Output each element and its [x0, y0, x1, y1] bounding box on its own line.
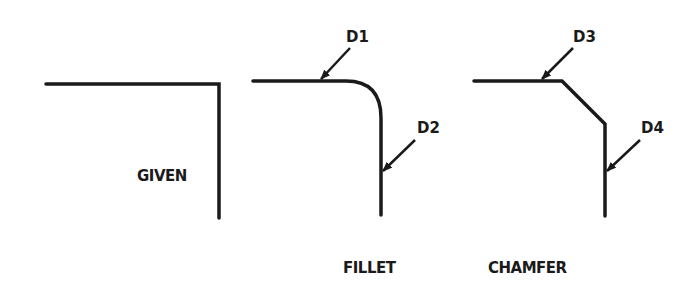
chamfer-label: CHAMFER: [488, 259, 568, 277]
d4-callout-label: D4: [641, 119, 664, 137]
fillet-corner-outline: [253, 81, 381, 215]
fillet-panel: D1 D2 FILLET: [253, 28, 440, 277]
d3-leader-arrow: [542, 48, 573, 79]
d2-callout-label: D2: [417, 119, 440, 137]
given-label: GIVEN: [137, 167, 187, 185]
chamfer-corner-outline: [474, 81, 605, 216]
d1-callout-label: D1: [346, 28, 369, 46]
given-panel: GIVEN: [46, 84, 219, 218]
d2-leader-arrow: [383, 140, 415, 171]
fillet-label: FILLET: [343, 259, 397, 277]
corner-treatment-diagram: GIVEN D1 D2 FILLET D3 D4 CHAMFER: [0, 0, 697, 283]
d3-callout-label: D3: [573, 28, 596, 46]
chamfer-panel: D3 D4 CHAMFER: [474, 28, 664, 277]
diagram-svg: GIVEN D1 D2 FILLET D3 D4 CHAMFER: [0, 0, 697, 283]
given-corner-outline: [46, 84, 219, 218]
d4-leader-arrow: [607, 140, 640, 171]
d1-leader-arrow: [321, 48, 350, 79]
